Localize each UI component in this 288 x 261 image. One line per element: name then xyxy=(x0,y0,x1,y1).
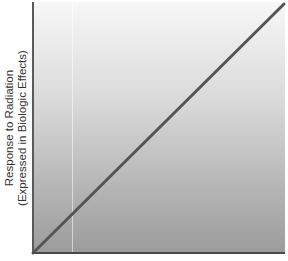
y-axis-label: Response to Radiation (Expressed in Biol… xyxy=(3,43,29,213)
y-axis xyxy=(32,2,34,254)
y-axis-label-line-1: Response to Radiation xyxy=(3,43,16,213)
x-axis xyxy=(32,252,285,254)
linear-response-line xyxy=(33,4,284,253)
line-series xyxy=(0,0,288,261)
chart: Response to Radiation (Expressed in Biol… xyxy=(0,0,288,261)
y-axis-label-line-2: (Expressed in Biologic Effects) xyxy=(16,43,29,213)
